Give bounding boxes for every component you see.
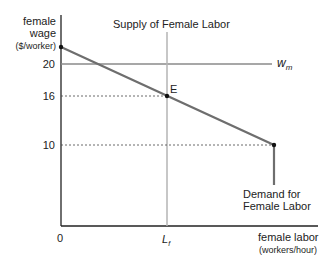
demand-label-2: Female Labor xyxy=(243,200,311,212)
origin-label: 0 xyxy=(57,232,63,244)
point-e-label: E xyxy=(170,83,177,95)
wm-label: wm xyxy=(277,57,292,74)
demand-label-1: Demand for xyxy=(243,188,300,200)
x-axis-label: female labor xyxy=(258,231,319,243)
y-axis-label-1: female xyxy=(23,15,56,27)
tick-20: 20 xyxy=(43,58,55,70)
tick-16: 16 xyxy=(43,90,55,102)
tick-10: 10 xyxy=(43,139,55,151)
x-axis-units: (workers/hour) xyxy=(259,244,317,256)
lf-label: Lf xyxy=(162,233,170,250)
y-axis-units: ($/worker) xyxy=(15,40,56,52)
point-e xyxy=(165,94,169,98)
supply-label: Supply of Female Labor xyxy=(113,18,230,30)
point-kink xyxy=(272,143,276,147)
y-axis-label-2: wage xyxy=(30,27,56,39)
point-top xyxy=(59,45,63,49)
